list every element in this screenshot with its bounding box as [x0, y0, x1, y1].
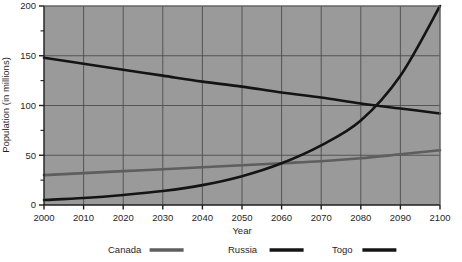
population-projection-chart: 050100150200 200020102020203020402050206…: [0, 0, 462, 262]
y-tick-label: 100: [20, 100, 36, 111]
x-axis-title: Year: [232, 225, 251, 236]
chart-svg: 050100150200 200020102020203020402050206…: [0, 0, 462, 262]
x-tick-label: 2100: [429, 212, 450, 223]
x-tick-label: 2020: [113, 212, 134, 223]
x-tick-label: 2080: [350, 212, 371, 223]
x-tick-label: 2000: [33, 212, 54, 223]
y-tick-label: 200: [20, 0, 36, 11]
y-tick-label: 150: [20, 50, 36, 61]
x-tick-label: 2030: [152, 212, 173, 223]
x-tick-label: 2010: [73, 212, 94, 223]
y-axis-title: Population (in millions): [0, 57, 11, 153]
x-tick-label: 2040: [192, 212, 213, 223]
x-tick-label: 2090: [390, 212, 411, 223]
x-tick-label: 2050: [231, 212, 252, 223]
x-tick-label: 2060: [271, 212, 292, 223]
y-tick-label: 50: [25, 150, 36, 161]
legend-label: Canada: [108, 244, 142, 255]
y-tick-label: 0: [31, 199, 36, 210]
legend-label: Togo: [332, 244, 353, 255]
legend-label: Russia: [228, 244, 258, 255]
x-tick-label: 2070: [311, 212, 332, 223]
